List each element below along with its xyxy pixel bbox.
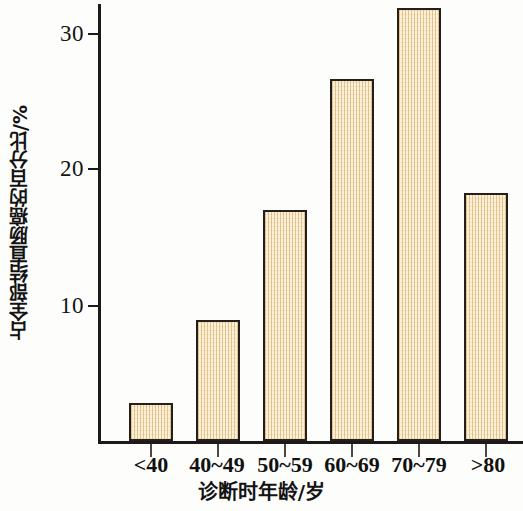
y-tick-label-20: 20	[38, 157, 84, 180]
bar-50-59[interactable]	[263, 210, 307, 441]
y-tick-label-30: 30	[38, 22, 84, 45]
bar-lt40[interactable]	[129, 403, 173, 441]
bar-60-69[interactable]	[330, 79, 374, 441]
y-axis-title: 占全部结直肠癌的百分比/%	[2, 0, 36, 445]
bar-chart: 占全部结直肠癌的百分比/% 30 20 10 <40 40~49 50~59 6…	[0, 0, 523, 511]
bar-40-49[interactable]	[196, 320, 240, 441]
x-axis-title: 诊断时年龄/岁	[0, 480, 523, 504]
x-label-gt80: >80	[448, 452, 523, 478]
bar-gt80[interactable]	[464, 193, 508, 441]
y-tick-mark-20	[88, 168, 100, 170]
y-tick-mark-10	[88, 305, 100, 307]
y-axis-line	[98, 4, 101, 444]
x-axis-line	[98, 441, 523, 444]
y-tick-label-10: 10	[38, 294, 84, 317]
y-tick-mark-30	[88, 33, 100, 35]
plot-area: 占全部结直肠癌的百分比/% 30 20 10 <40 40~49 50~59 6…	[0, 0, 523, 511]
bar-70-79[interactable]	[397, 8, 441, 441]
